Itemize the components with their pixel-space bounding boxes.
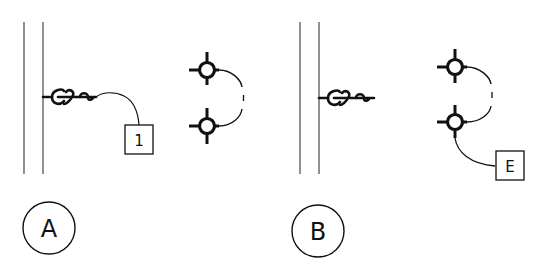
panel-a: 1 A [23,22,244,254]
crosshair-symbol-top-icon [437,49,467,83]
panel-b: E B [292,22,524,257]
connecting-arc-top [219,70,242,87]
panel-label-b: B [310,218,326,246]
diagram-canvas: 1 A [0,0,549,272]
connecting-arc-bottom [467,106,491,122]
squiggle-conductor-icon [43,90,96,104]
connecting-arc-bottom [219,109,242,126]
tag-label: E [505,158,514,176]
lead-curve [455,138,495,166]
crosshair-symbol-bottom-icon [189,108,219,144]
connecting-arc-top [467,67,491,84]
squiggle-conductor-icon [319,91,374,105]
crosshair-symbol-bottom-icon [437,105,467,138]
crosshair-symbol-top-icon [189,52,219,85]
panel-label-a: A [41,215,58,243]
tag-label: 1 [134,132,144,150]
lead-curve [96,93,139,125]
